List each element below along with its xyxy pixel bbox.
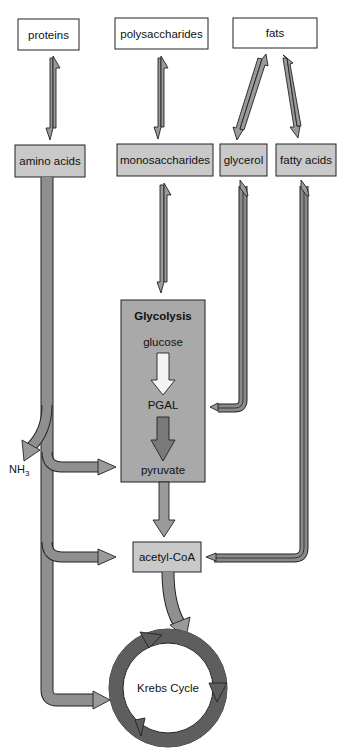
step-pgal: PGAL xyxy=(148,399,179,411)
reversible-arrow-monosaccharides-glycolysis xyxy=(157,183,171,293)
arrow-acetyl-coa-krebs xyxy=(168,572,190,638)
nh3-label: NH3 xyxy=(9,463,30,478)
arrow-to-pyruvate xyxy=(98,459,116,475)
step-glucose: glucose xyxy=(143,336,183,348)
reversible-arrow-fats-glycerol xyxy=(233,54,268,140)
node-glycerol: glycerol xyxy=(220,144,267,176)
krebs-label: Krebs Cycle xyxy=(137,682,199,694)
node-label: monosaccharides xyxy=(120,154,210,166)
node-label: fatty acids xyxy=(280,154,332,166)
node-label: glycerol xyxy=(224,154,264,166)
node-acetyl-coa: acetyl-CoA xyxy=(133,542,201,572)
reversible-arrow-polysaccharides-monosaccharides xyxy=(154,56,168,139)
node-label: fats xyxy=(266,27,285,39)
reversible-arrow-fats-fatty-acids xyxy=(283,55,301,138)
node-label: polysaccharides xyxy=(120,28,203,40)
node-amino-acids: amino acids xyxy=(15,145,85,177)
metabolism-diagram: proteins polysaccharides fats amino acid… xyxy=(0,0,345,749)
amino-acid-pathways xyxy=(22,177,116,709)
reversible-arrow-glycerol-pgal xyxy=(210,180,248,411)
reversible-arrow-proteins-amino-acids xyxy=(46,56,60,140)
node-polysaccharides: polysaccharides xyxy=(115,18,208,49)
glycolysis-title: Glycolysis xyxy=(134,310,192,322)
node-label: amino acids xyxy=(19,155,81,167)
node-label: acetyl-CoA xyxy=(139,551,196,563)
krebs-cycle: Krebs Cycle xyxy=(109,629,227,747)
arrow-to-krebs xyxy=(93,691,110,709)
arrow-to-acetyl-coa xyxy=(98,549,116,565)
node-monosaccharides: monosaccharides xyxy=(117,144,213,176)
step-pyruvate: pyruvate xyxy=(141,464,185,476)
node-fats: fats xyxy=(233,18,317,48)
glycolysis-panel: Glycolysis glucose PGAL pyruvate xyxy=(121,300,205,482)
node-fatty-acids: fatty acids xyxy=(276,144,336,176)
reversible-arrow-fatty-acids-acetyl-coa xyxy=(206,180,309,561)
arrow-pyruvate-acetyl-coa xyxy=(153,482,175,537)
node-label: proteins xyxy=(28,29,69,41)
node-proteins: proteins xyxy=(18,19,79,50)
